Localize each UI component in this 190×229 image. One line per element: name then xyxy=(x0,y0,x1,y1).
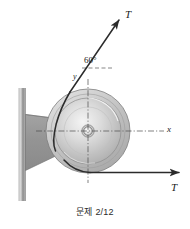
figure-caption: 문제 2/12 xyxy=(0,205,190,218)
figure-drawing xyxy=(0,0,190,229)
axis-label-x: x xyxy=(167,125,171,134)
angle-label-60deg: 60° xyxy=(84,56,97,65)
tension-label-top: T xyxy=(125,9,131,20)
tension-label-bottom: T xyxy=(171,182,177,193)
wall-support xyxy=(19,88,26,201)
pulley-free-body-figure: T T y x 60° 문제 2/12 xyxy=(0,0,190,229)
axis-label-y: y xyxy=(73,73,77,81)
